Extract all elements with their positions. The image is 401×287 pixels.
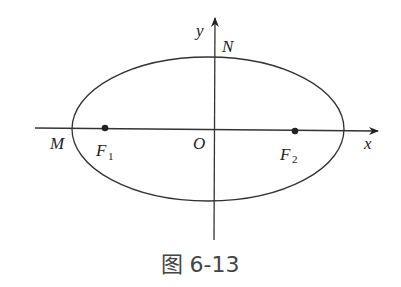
y-axis — [214, 18, 215, 240]
focus-left-subscript: 1 — [108, 150, 114, 162]
focus-right-subscript: 2 — [292, 153, 298, 165]
vertex-top-label: N — [221, 37, 235, 56]
x-axis — [35, 128, 378, 131]
origin-label: O — [193, 134, 205, 153]
vertex-left-label: M — [49, 134, 65, 153]
y-axis-label: y — [194, 21, 204, 40]
figure-caption: 图 6-13 — [161, 252, 240, 277]
focus-right-point — [292, 128, 299, 135]
focus-left-label: F — [95, 141, 107, 160]
x-axis-label: x — [363, 134, 372, 153]
ellipse-diagram: y N M O x F 1 F 2 图 6-13 — [0, 0, 401, 287]
focus-right-label: F — [279, 145, 291, 164]
focus-left-point — [102, 125, 109, 132]
